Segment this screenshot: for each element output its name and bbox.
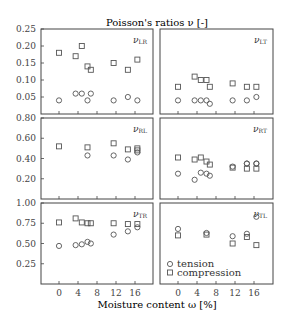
panel-label: νLR — [133, 35, 147, 45]
compression-point — [85, 221, 90, 226]
tension-point — [125, 229, 130, 234]
compression-point — [192, 157, 197, 162]
x-tick-label: 0 — [175, 288, 181, 298]
tension-point — [79, 242, 84, 247]
y-tick-label: 0.25 — [16, 24, 36, 34]
compression-point — [85, 64, 90, 69]
compression-point — [254, 84, 259, 89]
tension-point — [111, 232, 116, 237]
compression-point — [176, 233, 181, 238]
tension-point — [244, 231, 249, 236]
panel-label: νRL — [133, 124, 147, 134]
compression-point — [125, 67, 130, 72]
legend-compression-label: compression — [177, 267, 242, 278]
compression-point — [111, 61, 116, 66]
compression-point — [73, 216, 78, 221]
tension-point — [125, 157, 130, 162]
tension-point — [88, 91, 93, 96]
x-tick-labels: 04812160481216 — [56, 288, 260, 298]
y-tick-label: 0.80 — [16, 113, 36, 123]
x-tick-label: 4 — [194, 288, 200, 298]
tension-point — [198, 98, 203, 103]
x-tick-label: 8 — [213, 288, 219, 298]
panel-label: νLT — [254, 35, 267, 45]
compression-point — [244, 166, 249, 171]
tension-point — [175, 171, 180, 176]
tension-point — [254, 161, 259, 166]
compression-point — [198, 78, 203, 83]
tension-point — [175, 226, 180, 231]
y-tick-label: 0.75 — [16, 218, 36, 228]
panel-lr: 0.250.200.150.100.05νLR — [16, 24, 153, 114]
compression-point — [79, 220, 84, 225]
compression-point — [57, 220, 62, 225]
tension-point — [207, 101, 212, 106]
panel-label: νTR — [133, 209, 147, 219]
y-tick-label: 0.20 — [16, 41, 36, 51]
compression-point — [204, 159, 209, 164]
tension-point — [135, 98, 140, 103]
x-tick-label: 4 — [75, 288, 81, 298]
compression-point — [230, 81, 235, 86]
tension-point — [79, 91, 84, 96]
tension-point — [204, 230, 209, 235]
tension-point — [73, 91, 78, 96]
panel-rt: νRT — [160, 118, 273, 199]
compression-point — [204, 78, 209, 83]
tension-point — [230, 98, 235, 103]
x-tick-label: 0 — [56, 288, 62, 298]
y-tick-label: 0.05 — [16, 92, 36, 102]
panel-lt: νLT — [160, 29, 273, 114]
panel-tr: 1.000.750.500.25νTR — [16, 198, 153, 284]
tension-point — [85, 153, 90, 158]
legend-circle-icon — [167, 261, 172, 266]
x-tick-label: 12 — [229, 288, 240, 298]
compression-point — [125, 147, 130, 152]
tension-point — [254, 94, 259, 99]
y-tick-label: 0.60 — [16, 133, 36, 143]
tension-point — [135, 225, 140, 230]
compression-point — [230, 241, 235, 246]
x-axis-label: Moisture content ω [%] — [97, 299, 216, 310]
y-tick-label: 0.40 — [16, 154, 36, 164]
tension-point — [175, 98, 180, 103]
legend-square-icon — [168, 270, 173, 275]
tension-point — [56, 98, 61, 103]
compression-point — [79, 44, 84, 49]
tension-point — [230, 234, 235, 239]
panel-label: νRT — [253, 124, 267, 134]
tension-point — [192, 98, 197, 103]
compression-point — [88, 67, 93, 72]
compression-point — [88, 221, 93, 226]
tension-point — [244, 98, 249, 103]
poisson-ratio-chart: Poisson's ratios ν [-] 0.250.200.150.100… — [0, 0, 290, 323]
tension-point — [244, 161, 249, 166]
compression-point — [111, 221, 116, 226]
tension-point — [111, 153, 116, 158]
compression-point — [135, 57, 140, 62]
y-tick-label: 0.50 — [16, 239, 36, 249]
compression-point — [207, 84, 212, 89]
compression-point — [244, 84, 249, 89]
tension-point — [111, 98, 116, 103]
compression-point — [254, 166, 259, 171]
panel-rl: 0.800.600.400.20νRL — [16, 113, 153, 199]
chart-title: Poisson's ratios ν [-] — [106, 17, 208, 28]
legend: tension compression — [167, 258, 241, 278]
compression-point — [111, 141, 116, 146]
x-tick-label: 12 — [110, 288, 121, 298]
tension-point — [73, 243, 78, 248]
compression-point — [176, 84, 181, 89]
compression-point — [73, 54, 78, 59]
compression-point — [198, 155, 203, 160]
compression-point — [125, 222, 130, 227]
y-tick-label: 0.20 — [16, 174, 36, 184]
y-tick-label: 1.00 — [16, 198, 36, 208]
y-tick-label: 0.10 — [16, 75, 36, 85]
x-tick-label: 16 — [129, 288, 141, 298]
panels-group: 0.250.200.150.100.05νLRνLT0.800.600.400.… — [16, 24, 273, 284]
compression-point — [57, 144, 62, 149]
compression-point — [254, 243, 259, 248]
compression-point — [207, 162, 212, 167]
compression-point — [57, 50, 62, 55]
